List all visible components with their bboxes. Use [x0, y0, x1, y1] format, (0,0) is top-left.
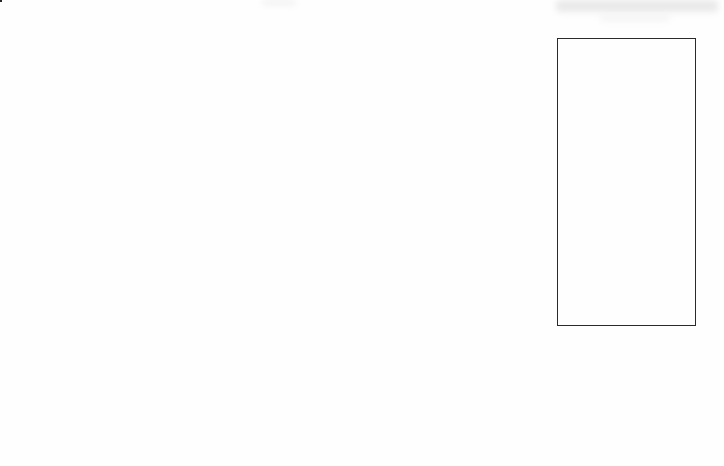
scatter-figure: [0, 0, 724, 466]
legend-box: [557, 38, 696, 326]
legend-title: [568, 44, 686, 68]
y-axis-title-line2: [37, 42, 59, 347]
scan-smudge: [556, 0, 718, 12]
plot-area: [0, 0, 2, 2]
scan-smudge: [600, 16, 670, 21]
y-axis-title-line1: [13, 42, 35, 347]
scan-smudge: [262, 0, 296, 5]
